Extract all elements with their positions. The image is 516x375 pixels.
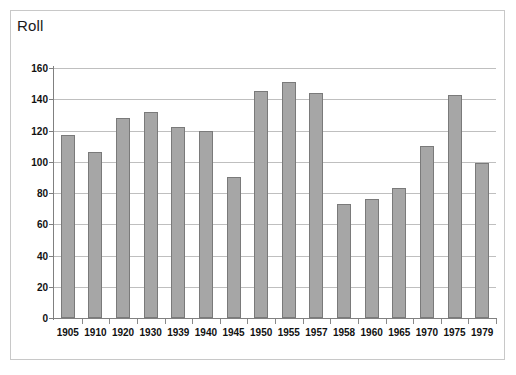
y-axis-tick-label: 0 (14, 313, 48, 324)
x-axis-tick-label: 1979 (462, 327, 502, 338)
x-axis-tick-mark (496, 319, 497, 324)
y-axis-tick-label: 120 (14, 125, 48, 136)
x-axis-tick-mark (468, 319, 469, 324)
x-axis-tick-mark (303, 319, 304, 324)
bar[interactable] (420, 146, 434, 318)
y-axis-tick-mark (49, 318, 54, 319)
plot-area (54, 68, 496, 318)
y-axis-tick-label: 80 (14, 188, 48, 199)
x-axis-tick-mark (192, 319, 193, 324)
x-axis-tick-mark (220, 319, 221, 324)
x-axis-tick-mark (358, 319, 359, 324)
y-axis-tick-label: 160 (14, 63, 48, 74)
bar[interactable] (309, 93, 323, 318)
x-axis-tick-mark (247, 319, 248, 324)
gridline (54, 68, 496, 69)
x-axis-tick-mark (330, 319, 331, 324)
bar[interactable] (88, 152, 102, 318)
bar[interactable] (227, 177, 241, 318)
x-axis-tick-mark (109, 319, 110, 324)
y-axis-tick-label: 40 (14, 250, 48, 261)
x-axis-tick-mark (82, 319, 83, 324)
y-axis-tick-label: 60 (14, 219, 48, 230)
y-axis-tick-labels: 020406080100120140160 (10, 0, 48, 375)
bar[interactable] (144, 112, 158, 318)
bar[interactable] (365, 199, 379, 318)
y-axis-tick-label: 20 (14, 281, 48, 292)
x-axis-tick-mark (137, 319, 138, 324)
x-axis-tick-mark (386, 319, 387, 324)
gridline (54, 99, 496, 100)
y-axis-tick-label: 140 (14, 94, 48, 105)
bar[interactable] (337, 204, 351, 318)
bar[interactable] (475, 163, 489, 318)
bar[interactable] (171, 127, 185, 318)
x-axis-tick-mark (165, 319, 166, 324)
y-axis-tick-label: 100 (14, 156, 48, 167)
bar[interactable] (116, 118, 130, 318)
x-axis-tick-mark (413, 319, 414, 324)
x-axis-tick-mark (441, 319, 442, 324)
x-axis-tick-mark (275, 319, 276, 324)
bar[interactable] (448, 95, 462, 318)
bar[interactable] (61, 135, 75, 318)
bar[interactable] (199, 131, 213, 319)
bar[interactable] (282, 82, 296, 318)
bar[interactable] (392, 188, 406, 318)
bar[interactable] (254, 91, 268, 318)
